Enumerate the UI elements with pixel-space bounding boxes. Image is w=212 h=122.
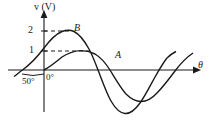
origin-angle-0-label: 0° bbox=[46, 73, 54, 82]
y-tick-label-1: 1 bbox=[29, 45, 34, 55]
theta-axis bbox=[8, 67, 201, 74]
waveform-figure: v (V) 2 1 B A 50° 0° θ bbox=[0, 0, 212, 122]
v-axis bbox=[41, 10, 48, 112]
theta-axis-label: θ bbox=[198, 60, 203, 70]
curve-a-label: A bbox=[115, 50, 121, 60]
curve-b-tail bbox=[167, 52, 176, 59]
y-tick-label-2: 2 bbox=[28, 25, 33, 35]
y-axis-label: v (V) bbox=[34, 2, 55, 12]
curve-b-label: B bbox=[74, 23, 80, 33]
phasor-waveform-plot bbox=[0, 0, 212, 122]
phase-angle-50-label: 50° bbox=[22, 77, 35, 86]
